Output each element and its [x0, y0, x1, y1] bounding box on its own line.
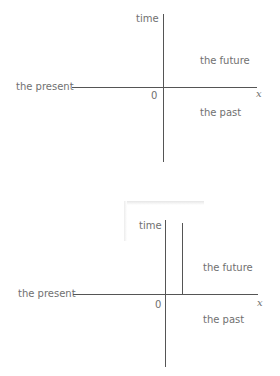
future-label: the future	[203, 262, 253, 274]
x-axis-label: x	[257, 297, 263, 309]
origin-label: 0	[151, 90, 157, 102]
x-axis	[72, 87, 257, 88]
x-axis	[73, 294, 258, 295]
past-label: the past	[203, 314, 244, 326]
time-axis-label: time	[139, 220, 162, 232]
time-axis-label: time	[136, 13, 159, 25]
scan-shadow-side	[124, 201, 127, 241]
origin-label: 0	[155, 299, 161, 311]
present-moment-line	[182, 223, 183, 294]
present-label: the present	[18, 288, 76, 300]
time-axis	[163, 14, 164, 162]
future-label: the future	[200, 55, 250, 67]
scan-shadow	[124, 201, 204, 205]
present-label: the present	[16, 81, 74, 93]
past-label: the past	[200, 107, 241, 119]
x-axis-label: x	[256, 88, 262, 100]
